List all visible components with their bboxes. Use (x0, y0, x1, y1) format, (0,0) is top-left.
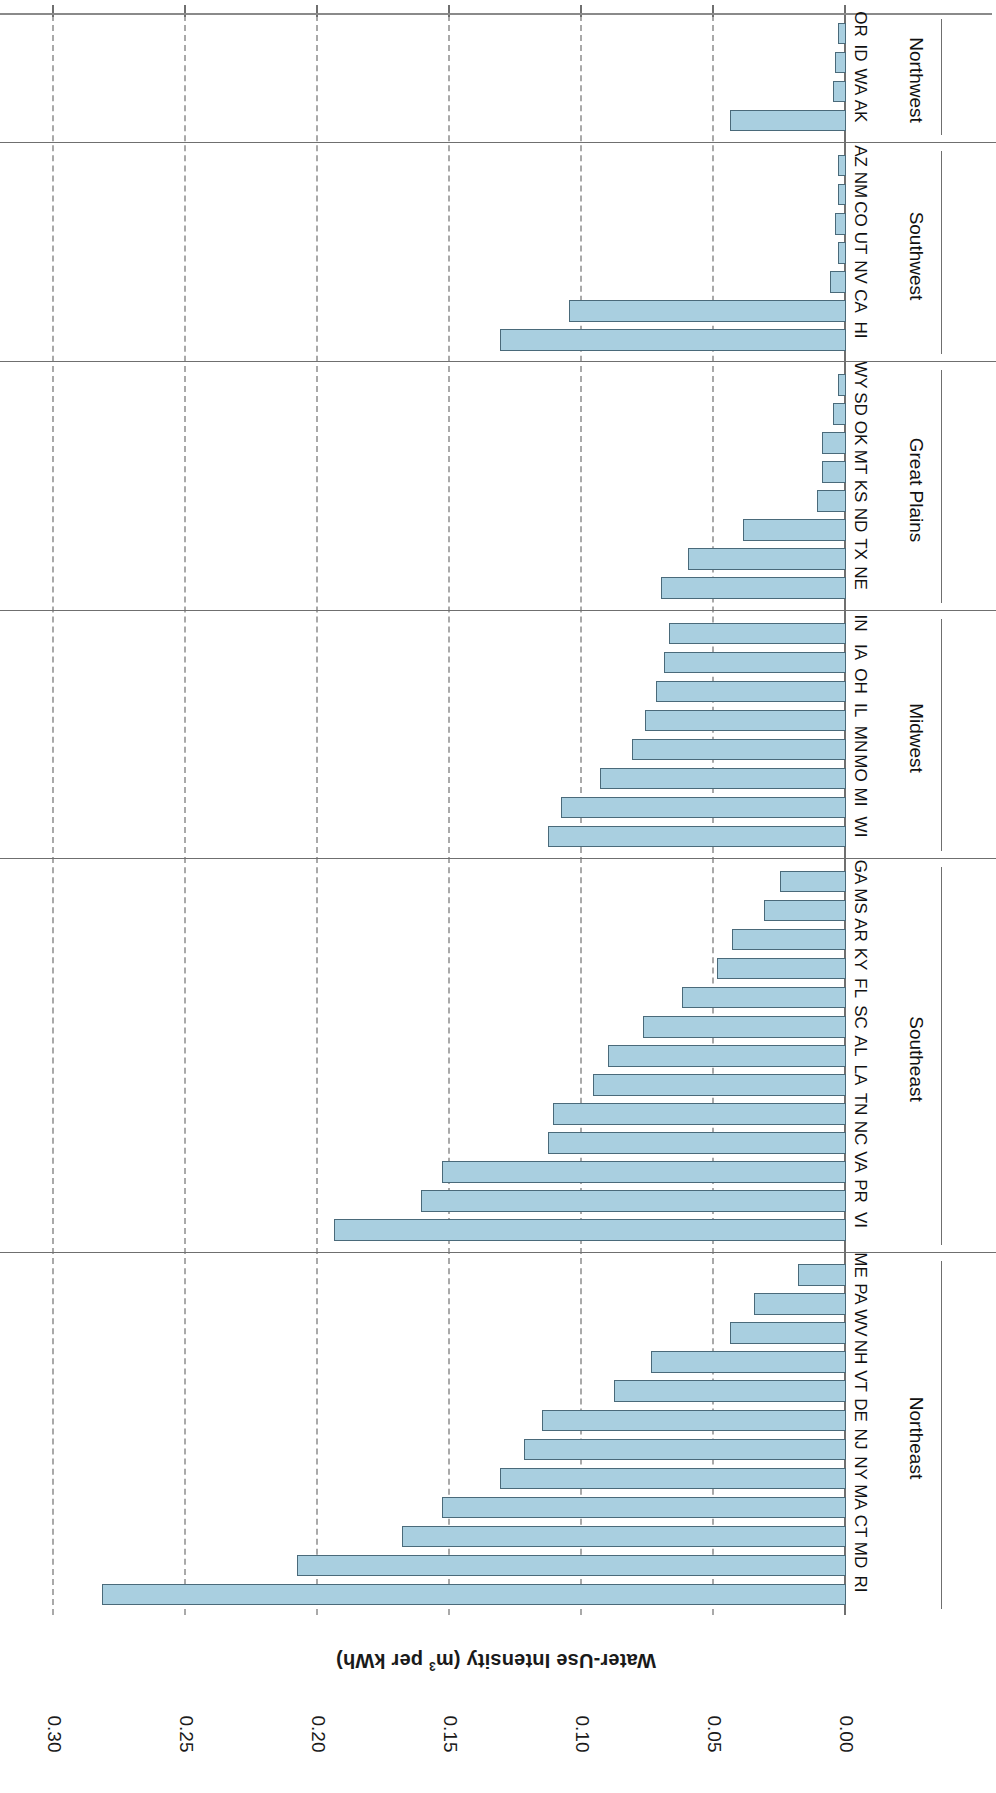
bar-md[interactable] (297, 1555, 846, 1576)
category-label-az: AZ (850, 145, 870, 167)
x-tick-mark (52, 5, 54, 17)
bar-pa[interactable] (754, 1293, 846, 1314)
x-tick-mark (580, 5, 582, 17)
bar-hi[interactable] (500, 329, 846, 350)
group-separator (0, 610, 996, 611)
bar-mo[interactable] (600, 768, 846, 789)
bar-il[interactable] (645, 710, 846, 731)
bar-ut[interactable] (838, 242, 846, 263)
bar-ar[interactable] (732, 929, 846, 950)
category-label-wy: WY (850, 361, 870, 388)
bar-mt[interactable] (822, 461, 846, 482)
bar-tn[interactable] (553, 1103, 846, 1124)
bar-la[interactable] (593, 1074, 846, 1095)
bar-wa[interactable] (833, 81, 846, 102)
bar-row: HI (0, 325, 992, 354)
plot-area: RIMDCTMANYNJDEVTNHWVPAMENortheastVIPRVAN… (0, 15, 992, 1615)
bar-nj[interactable] (524, 1439, 846, 1460)
bar-row: WV (0, 1319, 992, 1348)
bar-wv[interactable] (730, 1322, 846, 1343)
x-axis-title-text: Water-Use Intensity (m3 per kWh) (336, 1650, 656, 1672)
bar-ny[interactable] (500, 1468, 846, 1489)
bar-row: NY (0, 1464, 992, 1493)
bar-mn[interactable] (632, 739, 846, 760)
bar-row: ID (0, 48, 992, 77)
bar-row: PA (0, 1290, 992, 1319)
bar-vt[interactable] (614, 1380, 846, 1401)
bar-or[interactable] (838, 23, 846, 44)
bar-row: SC (0, 1012, 992, 1041)
x-axis-baseline (0, 13, 992, 15)
bar-ma[interactable] (442, 1497, 846, 1518)
x-tick-mark (712, 5, 714, 17)
group-separator (0, 858, 996, 859)
bar-wi[interactable] (548, 826, 846, 847)
bar-wy[interactable] (838, 374, 846, 395)
bar-sd[interactable] (833, 403, 846, 424)
bar-co[interactable] (835, 213, 846, 234)
bar-ga[interactable] (780, 871, 846, 892)
bar-row: AR (0, 925, 992, 954)
bar-vi[interactable] (334, 1219, 846, 1240)
bar-row: OK (0, 429, 992, 458)
bar-row: SD (0, 399, 992, 428)
bar-id[interactable] (835, 52, 846, 73)
bar-me[interactable] (798, 1264, 846, 1285)
bar-ne[interactable] (661, 577, 846, 598)
group-separator (0, 1252, 996, 1253)
bar-row: PR (0, 1186, 992, 1215)
bar-az[interactable] (838, 155, 846, 176)
bar-row: IA (0, 648, 992, 677)
bar-ks[interactable] (817, 490, 846, 511)
group-title-midwest: Midwest (905, 658, 927, 818)
bar-nh[interactable] (651, 1351, 846, 1372)
bar-ia[interactable] (664, 652, 846, 673)
bar-row: MD (0, 1551, 992, 1580)
bar-nm[interactable] (838, 184, 846, 205)
group-rail (941, 867, 942, 1245)
bar-row: TX (0, 545, 992, 574)
bar-al[interactable] (608, 1045, 846, 1066)
bar-row: NM (0, 180, 992, 209)
bar-ct[interactable] (402, 1526, 846, 1547)
bar-oh[interactable] (656, 681, 846, 702)
group-rail (941, 1261, 942, 1609)
x-tick-label: 0.25 (175, 1689, 197, 1779)
group-title-great-plains: Great Plains (905, 410, 927, 570)
bar-fl[interactable] (682, 987, 846, 1008)
bar-row: VI (0, 1216, 992, 1245)
bar-row: AZ (0, 151, 992, 180)
group-title-southwest: Southwest (905, 176, 927, 336)
bar-nc[interactable] (548, 1132, 846, 1153)
bar-ok[interactable] (822, 432, 846, 453)
bar-de[interactable] (542, 1410, 846, 1431)
bar-sc[interactable] (643, 1016, 846, 1037)
bar-row: MA (0, 1493, 992, 1522)
x-tick-label: 0.15 (439, 1689, 461, 1779)
bar-tx[interactable] (688, 548, 846, 569)
x-tick-mark (316, 5, 318, 17)
bar-in[interactable] (669, 623, 846, 644)
bar-ri[interactable] (102, 1584, 846, 1605)
x-tick-label: 0.05 (703, 1689, 725, 1779)
bar-va[interactable] (442, 1161, 846, 1182)
bar-ca[interactable] (569, 300, 846, 321)
bar-ak[interactable] (730, 110, 846, 131)
bar-nd[interactable] (743, 519, 846, 540)
bar-pr[interactable] (421, 1190, 846, 1211)
bar-mi[interactable] (561, 797, 846, 818)
bar-ms[interactable] (764, 900, 846, 921)
bar-ky[interactable] (717, 958, 846, 979)
bar-row: MT (0, 458, 992, 487)
bar-row: NV (0, 267, 992, 296)
bar-row: FL (0, 983, 992, 1012)
bar-row: NC (0, 1128, 992, 1157)
group-title-southeast: Southeast (905, 979, 927, 1139)
bar-row: IL (0, 706, 992, 735)
bar-row: KY (0, 954, 992, 983)
bar-row: ND (0, 516, 992, 545)
bar-nv[interactable] (830, 271, 846, 292)
bar-row: CT (0, 1522, 992, 1551)
bar-row: NE (0, 574, 992, 603)
